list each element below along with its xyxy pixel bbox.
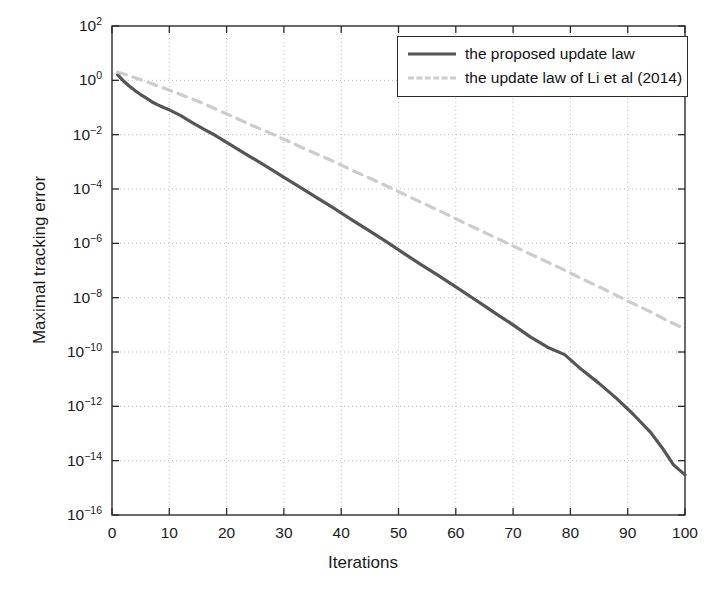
- legend-entry-li-et-al: the update law of Li et al (2014): [400, 66, 683, 90]
- x-tick-label: 60: [426, 524, 486, 542]
- figure-container: 10210010−210−410−610−810−1010−1210−1410−…: [0, 0, 726, 591]
- data-series-group: [118, 72, 685, 475]
- dashed-line-sample: [408, 71, 456, 85]
- y-axis-label: Maximal tracking error: [30, 110, 50, 410]
- x-tick-label: 70: [483, 524, 543, 542]
- legend: the proposed update law the update law o…: [397, 36, 688, 97]
- x-tick-label: 90: [598, 524, 658, 542]
- y-axis-label-wrapper: Maximal tracking error: [0, 0, 60, 530]
- x-tick-label: 50: [369, 524, 429, 542]
- x-tick-label: 10: [139, 524, 199, 542]
- legend-entry-proposed: the proposed update law: [400, 42, 683, 66]
- x-tick-label: 0: [82, 524, 142, 542]
- x-tick-label: 30: [254, 524, 314, 542]
- x-tick-label: 100: [655, 524, 715, 542]
- legend-label-proposed: the proposed update law: [465, 45, 635, 63]
- x-tick-label: 40: [311, 524, 371, 542]
- series-line-1: [118, 75, 685, 475]
- x-tick-label: 80: [540, 524, 600, 542]
- legend-label-li-et-al: the update law of Li et al (2014): [465, 69, 682, 87]
- x-tick-label: 20: [197, 524, 257, 542]
- solid-line-sample: [408, 47, 456, 61]
- series-line-2: [118, 72, 685, 329]
- x-axis-label: Iterations: [0, 553, 726, 573]
- gridlines: [112, 26, 685, 515]
